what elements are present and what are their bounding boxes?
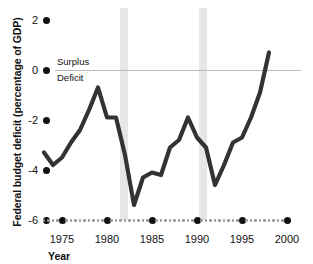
- x-axis-major-dot: [284, 217, 291, 224]
- x-axis-minor-dot: [146, 219, 149, 222]
- x-axis-title: Year: [48, 250, 70, 262]
- x-axis-minor-dot: [173, 219, 176, 222]
- x-tick-label-1985: 1985: [132, 234, 172, 245]
- x-axis-minor-dot: [209, 219, 212, 222]
- x-axis-minor-dot: [83, 219, 86, 222]
- x-axis-minor-dot: [263, 219, 266, 222]
- x-tick-label-1990: 1990: [177, 234, 217, 245]
- x-tick-label-2000: 2000: [267, 234, 307, 245]
- x-axis-minor-dot: [254, 219, 257, 222]
- x-axis-minor-dot: [236, 219, 239, 222]
- x-tick-label-1980: 1980: [87, 234, 127, 245]
- x-axis-minor-dot: [110, 219, 113, 222]
- x-axis-minor-dot: [227, 219, 230, 222]
- x-axis-minor-dot: [272, 219, 275, 222]
- x-axis-minor-dot: [218, 219, 221, 222]
- x-axis-minor-dot: [182, 219, 185, 222]
- chart-figure: Federal budget deficit (percentage of GD…: [0, 0, 313, 264]
- deficit-line-series: [0, 0, 313, 264]
- x-tick-label-1975: 1975: [42, 234, 82, 245]
- x-axis-minor-dot: [47, 219, 50, 222]
- x-axis-minor-dot: [74, 219, 77, 222]
- x-axis-minor-dot: [92, 219, 95, 222]
- x-axis-minor-dot: [56, 219, 59, 222]
- x-axis-minor-dot: [65, 219, 68, 222]
- x-axis-minor-dot: [155, 219, 158, 222]
- x-axis-minor-dot: [164, 219, 167, 222]
- x-tick-label-1995: 1995: [222, 234, 262, 245]
- x-axis-minor-dot: [137, 219, 140, 222]
- x-axis-minor-dot: [119, 219, 122, 222]
- x-axis-minor-dot: [191, 219, 194, 222]
- x-axis-minor-dot: [245, 219, 248, 222]
- x-axis-minor-dot: [281, 219, 284, 222]
- x-axis-minor-dot: [101, 219, 104, 222]
- x-axis-minor-dot: [128, 219, 131, 222]
- x-axis-minor-dot: [200, 219, 203, 222]
